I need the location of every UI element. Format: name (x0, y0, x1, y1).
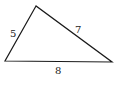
triangle-diagram: 5 7 8 (0, 0, 121, 92)
side-label-bottom: 8 (55, 65, 61, 76)
side-label-left: 5 (10, 28, 16, 39)
side-label-right: 7 (75, 24, 81, 35)
triangle-shape (5, 6, 112, 62)
